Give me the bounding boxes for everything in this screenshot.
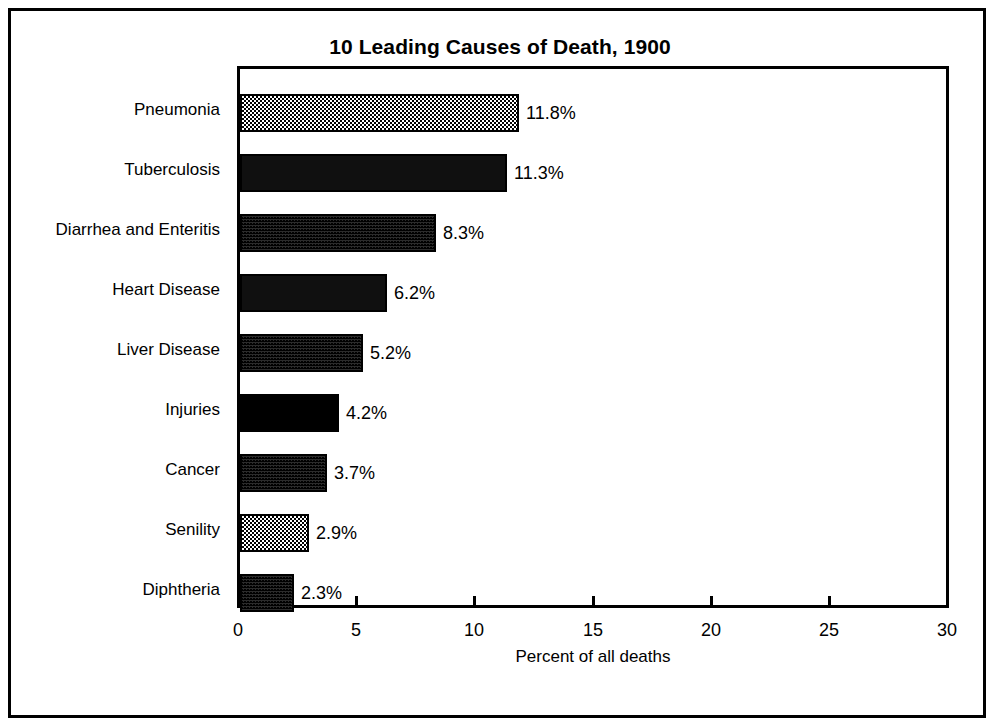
category-label: Tuberculosis <box>124 160 229 180</box>
bar <box>240 514 309 552</box>
bar <box>240 274 387 312</box>
category-label: Liver Disease <box>117 340 229 360</box>
x-axis-tick-label: 30 <box>937 620 957 641</box>
bar-value-label: 3.7% <box>327 454 375 492</box>
category-label-row: Diarrhea and Enteritis <box>11 200 229 260</box>
category-label-row: Cancer <box>11 440 229 500</box>
category-label-row: Senility <box>11 500 229 560</box>
figure-frame: 10 Leading Causes of Death, 1900 Pneumon… <box>8 8 986 718</box>
bar-row: 11.8% <box>240 83 946 143</box>
bar-value-label: 11.8% <box>519 94 576 132</box>
x-axis-tick-label: 0 <box>233 620 243 641</box>
bar <box>240 214 436 252</box>
x-axis-tick <box>473 596 476 608</box>
bar-row: 3.7% <box>240 443 946 503</box>
category-label: Pneumonia <box>134 100 229 120</box>
chart-title: 10 Leading Causes of Death, 1900 <box>11 35 989 59</box>
x-axis-tick-label: 20 <box>701 620 721 641</box>
category-label: Injuries <box>165 400 229 420</box>
category-label-row: Diphtheria <box>11 560 229 620</box>
category-axis-labels: PneumoniaTuberculosisDiarrhea and Enteri… <box>11 66 229 608</box>
x-axis-tick-label: 25 <box>819 620 839 641</box>
bar-row: 11.3% <box>240 143 946 203</box>
category-label-row: Heart Disease <box>11 260 229 320</box>
bar-row: 8.3% <box>240 203 946 263</box>
category-label-row: Tuberculosis <box>11 140 229 200</box>
bar <box>240 334 363 372</box>
bar-row: 4.2% <box>240 383 946 443</box>
bar-value-label: 2.3% <box>294 574 342 612</box>
bar-value-label: 4.2% <box>339 394 387 432</box>
x-axis-tick <box>828 596 831 608</box>
bar-row: 5.2% <box>240 323 946 383</box>
category-label: Senility <box>165 520 229 540</box>
x-axis-tick-label: 15 <box>583 620 603 641</box>
x-axis-tick <box>946 596 949 608</box>
bar-row: 2.9% <box>240 503 946 563</box>
category-label: Cancer <box>165 460 229 480</box>
x-axis-tick <box>355 596 358 608</box>
x-axis-tick <box>592 596 595 608</box>
bar-value-label: 5.2% <box>363 334 411 372</box>
bar <box>240 394 339 432</box>
bars-layer: 11.8%11.3%8.3%6.2%5.2%4.2%3.7%2.9%2.3% <box>240 69 946 605</box>
x-axis-tick <box>237 596 240 608</box>
bar <box>240 154 507 192</box>
category-label-row: Liver Disease <box>11 320 229 380</box>
x-axis-tick <box>710 596 713 608</box>
category-label: Diphtheria <box>143 580 230 600</box>
bar-value-label: 6.2% <box>387 274 435 312</box>
category-label: Diarrhea and Enteritis <box>56 220 229 240</box>
x-axis-title: Percent of all deaths <box>237 647 949 667</box>
category-label: Heart Disease <box>112 280 229 300</box>
plot-area: 11.8%11.3%8.3%6.2%5.2%4.2%3.7%2.9%2.3% <box>237 66 949 608</box>
bar <box>240 94 519 132</box>
bar-value-label: 2.9% <box>309 514 357 552</box>
x-axis-tick-label: 5 <box>351 620 361 641</box>
bar-row: 6.2% <box>240 263 946 323</box>
bar <box>240 574 294 612</box>
category-label-row: Pneumonia <box>11 80 229 140</box>
x-axis-tick-label: 10 <box>464 620 484 641</box>
bar-value-label: 11.3% <box>507 154 564 192</box>
category-label-row: Injuries <box>11 380 229 440</box>
bar-value-label: 8.3% <box>436 214 484 252</box>
bar <box>240 454 327 492</box>
